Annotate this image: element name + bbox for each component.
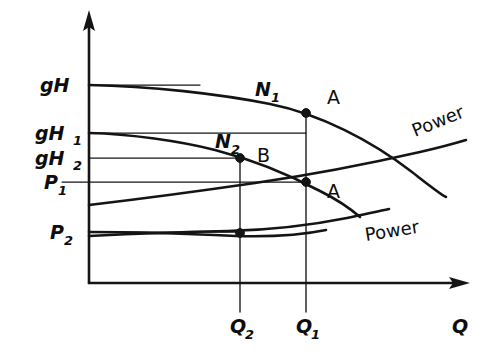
curve-label-N1: N (255, 78, 271, 100)
y-label-P2-subscript: 2 (64, 233, 73, 248)
curve-label-power-upper: Power (409, 101, 468, 141)
power-curve-upper (89, 140, 466, 205)
curve-label-N1-subscript: 1 (271, 90, 280, 105)
pump-characteristic-diagram: gH gH 1 gH 2 P 1 P 2 Q 2 Q 1 Q N 1 N 2 P… (0, 0, 502, 359)
curve-label-power-lower: Power (363, 216, 421, 245)
curve-label-N2-subscript: 2 (231, 142, 240, 157)
x-label-Q2-subscript: 2 (245, 327, 254, 342)
operating-point-P2 (236, 229, 245, 238)
x-axis-labels-group: Q 2 Q 1 Q (230, 315, 468, 342)
curves-group (89, 85, 466, 236)
curve-label-N2: N (215, 130, 231, 152)
y-label-gH2-subscript: 2 (73, 158, 82, 173)
operating-point-A-lower (302, 178, 311, 187)
x-label-Q1-subscript: 1 (311, 327, 320, 342)
y-label-gH1: gH (35, 122, 65, 144)
markers-group (236, 109, 311, 238)
point-label-A-lower: A (327, 180, 340, 202)
y-label-gH: gH (40, 74, 70, 96)
x-label-Q1: Q (296, 315, 312, 337)
y-label-P2: P (50, 221, 64, 243)
y-label-P1: P (44, 171, 58, 193)
point-label-B: B (257, 144, 270, 166)
y-label-P1-subscript: 1 (58, 183, 67, 198)
y-label-gH1-subscript: 1 (73, 133, 82, 148)
y-axis-labels-group: gH gH 1 gH 2 P 1 P 2 (35, 74, 82, 248)
x-axis-end-label-Q: Q (452, 315, 468, 337)
operating-point-A-upper (302, 109, 311, 118)
y-label-gH2: gH (35, 147, 65, 169)
point-label-A-upper: A (327, 86, 340, 108)
x-label-Q2: Q (230, 315, 246, 337)
axes-group (83, 10, 470, 289)
